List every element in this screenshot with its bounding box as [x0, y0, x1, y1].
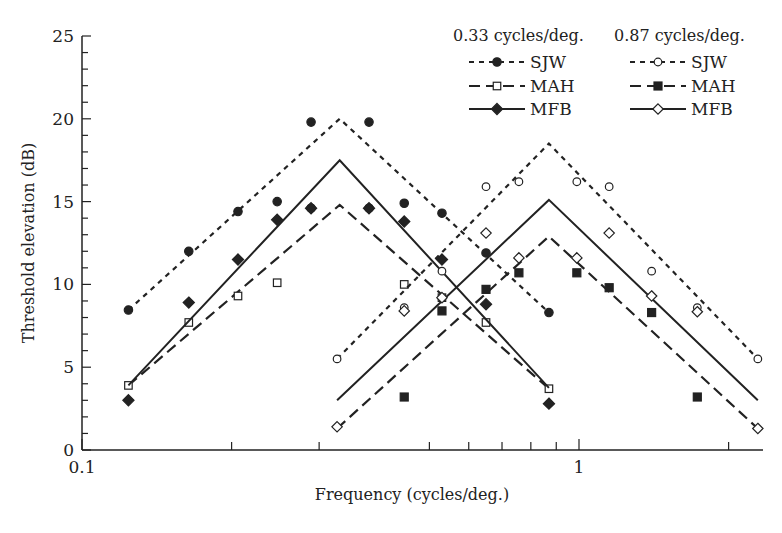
fit-line — [128, 160, 549, 388]
legend-label: MFB — [691, 99, 733, 119]
filled-diamond-marker — [123, 395, 134, 406]
open-diamond-marker — [572, 253, 582, 263]
filled-square-marker — [482, 285, 490, 293]
open-square-marker — [273, 279, 281, 287]
filled-circle-marker — [545, 308, 553, 316]
open-square-marker — [234, 292, 242, 300]
open-circle-marker — [754, 355, 762, 363]
open-circle-marker — [648, 267, 656, 275]
open-circle-marker — [605, 183, 613, 191]
y-tick-label: 25 — [52, 26, 74, 46]
filled-square-marker — [648, 309, 656, 317]
fit-line — [337, 144, 758, 359]
open-circle-marker — [333, 355, 341, 363]
legend-open-circle-icon — [654, 58, 662, 66]
open-diamond-marker — [332, 422, 342, 432]
legend-label: SJW — [530, 52, 566, 72]
filled-circle-marker — [234, 207, 242, 215]
series-layer — [123, 118, 763, 434]
fit-line — [128, 119, 549, 313]
filled-circle-marker — [307, 118, 315, 126]
x-tick-label: 1 — [574, 457, 585, 477]
x-axis-title: Frequency (cycles/deg.) — [315, 485, 509, 504]
series-mfb-033 — [123, 160, 555, 409]
open-diamond-marker — [514, 253, 524, 263]
filled-diamond-marker — [363, 203, 374, 214]
legend-filled-diamond-icon — [491, 103, 502, 114]
filled-square-marker — [693, 393, 701, 401]
legend-label: SJW — [691, 52, 727, 72]
filled-circle-marker — [273, 197, 281, 205]
filled-square-marker — [573, 269, 581, 277]
y-tick-label: 15 — [52, 192, 74, 212]
series-sjw-087 — [333, 144, 761, 363]
filled-circle-marker — [438, 209, 446, 217]
x-tick-label: 0.1 — [68, 457, 95, 477]
y-tick-label: 5 — [63, 357, 74, 377]
legend-open-square-icon — [493, 82, 501, 90]
open-diamond-marker — [646, 291, 656, 301]
open-diamond-marker — [481, 228, 491, 238]
filled-circle-marker — [400, 199, 408, 207]
legend: 0.33 cycles/deg.SJWMAHMFB0.87 cycles/deg… — [453, 26, 745, 119]
filled-diamond-marker — [183, 297, 194, 308]
open-circle-marker — [515, 178, 523, 186]
filled-diamond-marker — [305, 203, 316, 214]
y-tick-label: 20 — [52, 109, 74, 129]
axes: 05101520250.11 — [52, 26, 763, 477]
filled-square-marker — [438, 307, 446, 315]
legend-filled-circle-icon — [493, 58, 501, 66]
open-circle-marker — [482, 183, 490, 191]
legend-filled-square-icon — [654, 82, 662, 90]
y-axis-title: Threshold elevation (dB) — [19, 143, 38, 343]
filled-square-marker — [605, 284, 613, 292]
filled-diamond-marker — [480, 299, 491, 310]
legend-label: MFB — [530, 99, 572, 119]
legend-open-diamond-icon — [653, 104, 663, 114]
filled-diamond-marker — [543, 398, 554, 409]
filled-circle-marker — [365, 118, 373, 126]
filled-circle-marker — [124, 306, 132, 314]
legend-label: MAH — [530, 76, 575, 96]
filled-square-marker — [515, 269, 523, 277]
open-circle-marker — [438, 267, 446, 275]
legend-label: MAH — [691, 76, 736, 96]
open-diamond-marker — [604, 228, 614, 238]
chart: 05101520250.11 0.33 cycles/deg.SJWMAHMFB… — [0, 0, 782, 533]
legend-header: 0.33 cycles/deg. — [453, 26, 584, 45]
legend-header: 0.87 cycles/deg. — [614, 26, 745, 45]
filled-square-marker — [400, 393, 408, 401]
open-circle-marker — [573, 178, 581, 186]
filled-circle-marker — [185, 247, 193, 255]
y-tick-label: 10 — [52, 274, 74, 294]
